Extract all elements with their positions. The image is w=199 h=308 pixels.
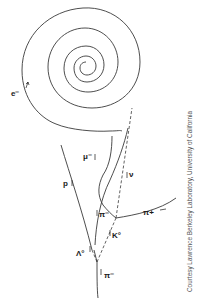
- muon-track: [99, 136, 116, 218]
- lambda-label: Λ°: [76, 249, 85, 258]
- neutrino-track: [116, 108, 132, 218]
- photo-credit: Courtesy Lawrence Berkeley Laboratory, U…: [186, 111, 194, 292]
- electron-entry-track: [56, 124, 122, 131]
- arrow-pion-plus-icon: [160, 209, 166, 210]
- kaon-neutral-track: [97, 218, 116, 262]
- pion-plus-label: π+: [143, 208, 154, 217]
- arrow-electron-icon: [26, 82, 29, 88]
- bubble-chamber-diagram: e⁻ μ⁻ p ν π⁻ π+ K° Λ° π⁻ Courtesy Lawren…: [0, 0, 199, 308]
- pion-minus-upper-label: π⁻: [99, 210, 109, 219]
- neutrino-label: ν: [129, 170, 134, 179]
- proton-label: p: [63, 179, 68, 188]
- pion-minus-lower-track: [97, 262, 98, 298]
- kaon-label: K°: [112, 231, 121, 240]
- electron-spiral-track: [22, 8, 140, 124]
- pion-minus-lower-label: π⁻: [104, 271, 114, 280]
- electron-label: e⁻: [11, 89, 19, 98]
- muon-label: μ⁻: [83, 152, 92, 161]
